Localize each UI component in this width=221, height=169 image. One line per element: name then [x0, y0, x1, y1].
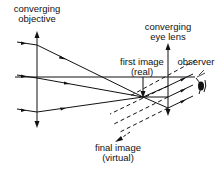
- final-image-label: final image (virtual): [88, 143, 148, 163]
- first-image-label-line2: (real): [116, 67, 168, 77]
- observer-label: observer: [173, 57, 219, 67]
- eye-lens-label-line2: eye lens: [138, 32, 198, 42]
- objective-label-line2: objective: [8, 14, 66, 24]
- eye-lens: [166, 43, 171, 116]
- final-image-arrow: [115, 132, 130, 142]
- final-image-label-line2: (virtual): [88, 153, 148, 163]
- observer-eye-icon: [196, 70, 206, 94]
- objective-label: converging objective: [8, 4, 66, 24]
- eye-lens-label: converging eye lens: [138, 22, 198, 42]
- refracted-ray-arrows: [59, 56, 70, 111]
- observer-label-text: observer: [173, 57, 219, 67]
- first-image-label: first image (real): [116, 57, 168, 77]
